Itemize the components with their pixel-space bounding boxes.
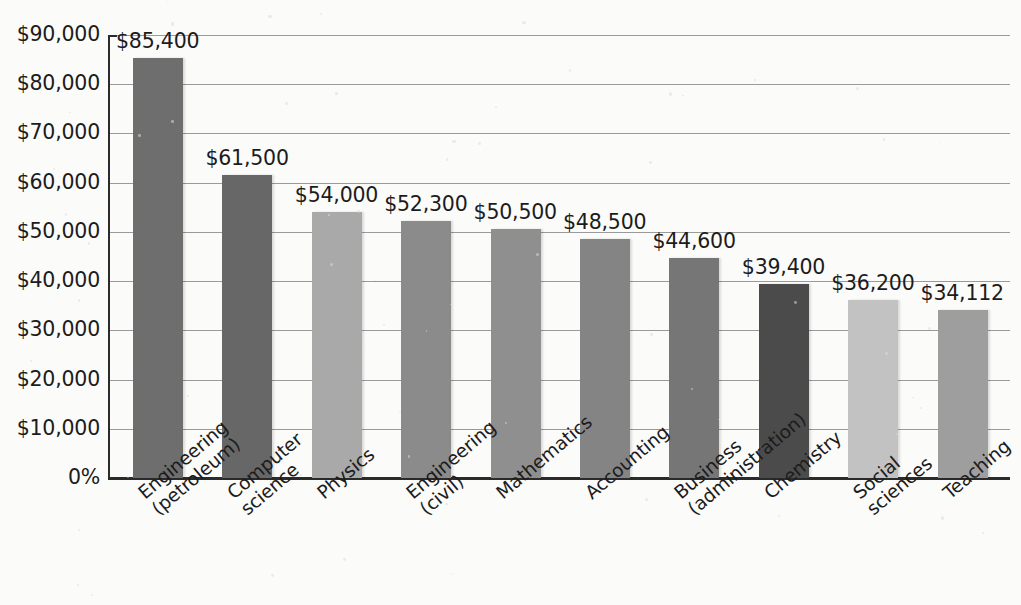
y-axis-tick-label: $60,000 <box>4 170 100 194</box>
scan-speckle <box>383 324 385 326</box>
gridline <box>108 133 1010 134</box>
y-axis-tick-label: $50,000 <box>4 219 100 243</box>
scan-speckle <box>91 594 93 596</box>
scan-speckle <box>451 573 452 574</box>
scan-speckle <box>569 69 571 71</box>
scan-speckle <box>78 529 80 531</box>
scan-speckle <box>343 558 346 561</box>
y-axis-tick-label: $40,000 <box>4 268 100 292</box>
scan-speckle <box>778 515 780 517</box>
scan-speckle <box>856 87 859 90</box>
bar-value-label: $50,500 <box>474 200 557 224</box>
bar-value-label: $34,112 <box>921 281 1004 305</box>
scan-speckle <box>754 79 756 81</box>
scan-speckle <box>682 95 684 97</box>
y-axis-tick-label: $10,000 <box>4 416 100 440</box>
chart-screenshot: $90,000$80,000$70,000$60,000$50,000$40,0… <box>0 0 1021 605</box>
scan-speckle <box>645 498 648 501</box>
y-axis-tick-label: $20,000 <box>4 367 100 391</box>
scan-speckle <box>65 213 67 215</box>
y-axis-tick-label: $90,000 <box>4 22 100 46</box>
bar[interactable] <box>312 212 362 478</box>
scan-speckle <box>485 249 486 250</box>
scan-speckle <box>941 516 944 519</box>
gridline <box>108 84 1010 85</box>
scan-speckle <box>650 333 653 336</box>
bar[interactable] <box>401 221 451 478</box>
bar[interactable] <box>669 258 719 478</box>
bar-chart: $90,000$80,000$70,000$60,000$50,000$40,0… <box>0 0 1021 605</box>
y-axis-tick-label: 0% <box>4 465 100 489</box>
scan-speckle <box>167 1 168 2</box>
y-axis-tick-label: $30,000 <box>4 317 100 341</box>
scan-speckle <box>920 407 922 409</box>
scan-speckle <box>953 582 954 583</box>
scan-speckle <box>522 21 525 24</box>
scan-speckle <box>649 161 652 164</box>
scan-speckle <box>187 395 189 397</box>
bar-value-label: $85,400 <box>116 29 199 53</box>
scan-speckle <box>883 138 886 141</box>
scan-speckle <box>78 299 81 302</box>
scan-speckle <box>669 92 672 95</box>
scan-speckle <box>320 13 322 15</box>
scan-speckle <box>171 22 174 25</box>
gridline <box>108 35 1010 36</box>
scan-speckle <box>268 15 271 18</box>
bar-value-label: $48,500 <box>563 210 646 234</box>
y-axis-tick-label: $80,000 <box>4 71 100 95</box>
bar-value-label: $36,200 <box>831 271 914 295</box>
bar-value-label: $54,000 <box>295 183 378 207</box>
bar[interactable] <box>580 239 630 478</box>
scan-speckle <box>452 140 455 143</box>
y-axis-tick-label: $70,000 <box>4 120 100 144</box>
scan-speckle <box>446 158 448 160</box>
scan-speckle <box>912 397 913 398</box>
bar-value-label: $39,400 <box>742 255 825 279</box>
bar[interactable] <box>133 58 183 478</box>
scan-speckle <box>940 143 941 144</box>
bar-value-label: $52,300 <box>384 192 467 216</box>
y-axis-line <box>108 35 110 479</box>
scan-speckle <box>982 532 984 534</box>
scan-speckle <box>285 102 288 105</box>
scan-speckle <box>495 106 497 108</box>
scan-speckle <box>335 92 337 94</box>
bar-value-label: $61,500 <box>205 146 288 170</box>
scan-speckle <box>30 360 32 362</box>
bar-value-label: $44,600 <box>652 229 735 253</box>
scan-speckle <box>271 574 274 577</box>
scan-speckle <box>365 351 366 352</box>
scan-speckle <box>478 142 481 145</box>
scan-speckle <box>69 112 70 113</box>
scan-speckle <box>77 584 79 586</box>
